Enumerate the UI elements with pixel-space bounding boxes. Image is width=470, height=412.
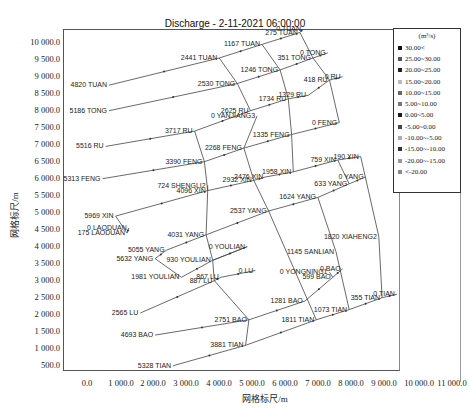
cross-section-label: 4820 TUAN bbox=[71, 81, 107, 88]
cross-section-label: 1073 TIAN bbox=[314, 306, 347, 313]
legend-swatch-icon bbox=[398, 159, 402, 163]
cross-section-label: 1281 BAO bbox=[270, 297, 303, 304]
flow-marker-icon bbox=[268, 104, 270, 106]
cross-section-label: 5516 RU bbox=[76, 142, 104, 149]
cross-section-label: 4031 YANG bbox=[167, 231, 204, 238]
legend-border-line bbox=[460, 192, 461, 382]
legend-swatch-icon bbox=[398, 147, 402, 151]
river-reach-line bbox=[246, 320, 249, 346]
flow-marker-icon bbox=[276, 310, 278, 312]
cross-section-label: 1145 SANLIAN bbox=[287, 248, 334, 255]
legend-swatch-icon bbox=[398, 136, 402, 140]
legend-label: 5.00~10.00 bbox=[405, 100, 437, 108]
flow-marker-icon bbox=[318, 288, 320, 290]
flow-marker-icon bbox=[337, 272, 339, 274]
legend-label: -10.00~-5.00 bbox=[405, 134, 441, 142]
cross-section-label: 2441 TUAN bbox=[181, 54, 217, 61]
flow-marker-icon bbox=[149, 138, 151, 140]
cross-section-label: 633 YANG bbox=[314, 180, 347, 187]
legend-label: 15.00~20.00 bbox=[405, 78, 440, 86]
legend-entry: 15.00~20.00 bbox=[398, 76, 456, 87]
flow-marker-icon bbox=[267, 140, 269, 142]
river-reach-line bbox=[336, 252, 349, 310]
flow-marker-icon bbox=[280, 38, 282, 40]
cross-section-label: 930 YOULIAN bbox=[166, 256, 210, 263]
cross-section-label: 599 BAO bbox=[302, 273, 331, 280]
flow-marker-icon bbox=[230, 185, 232, 187]
cross-section-label: 2751 BAO bbox=[215, 316, 248, 323]
cross-section-label: 1246 TONG bbox=[241, 66, 279, 73]
river-reach-line bbox=[206, 191, 208, 235]
cross-section-label: 3881 TIAN bbox=[210, 341, 243, 348]
cross-section-label: 1811 TIAN bbox=[281, 316, 314, 323]
flow-marker-icon bbox=[333, 190, 335, 192]
legend-swatch-icon bbox=[398, 113, 402, 117]
legend-unit: (m³/s) bbox=[398, 32, 456, 40]
legend-entry: <-20.00 bbox=[398, 166, 456, 177]
cross-section-label: 2565 LU bbox=[112, 309, 138, 316]
cross-section-label: 5055 YANG bbox=[128, 246, 165, 253]
river-reach-line bbox=[379, 237, 382, 298]
cross-section-label: 1958 XIN bbox=[262, 168, 291, 175]
flow-marker-icon bbox=[127, 230, 129, 232]
legend-label: 10.00~15.00 bbox=[405, 89, 440, 97]
legend-entry: -5.00~0.00 bbox=[398, 121, 456, 132]
cross-section-label: 1820 XIAHENG2 bbox=[324, 233, 377, 240]
flow-marker-icon bbox=[196, 268, 198, 270]
cross-section-label: 190 XIN bbox=[333, 153, 358, 160]
legend: (m³/s) 30.00<25.00~30.0020.00~25.0015.00… bbox=[393, 28, 461, 193]
flow-marker-icon bbox=[280, 332, 282, 334]
flow-marker-icon bbox=[296, 63, 298, 65]
river-reach-line bbox=[173, 294, 397, 365]
river-reach-line bbox=[330, 80, 340, 123]
flow-marker-icon bbox=[172, 96, 174, 98]
cross-section-label: 355 TIAN bbox=[351, 294, 380, 301]
legend-label: -5.00~0.00 bbox=[405, 123, 436, 131]
legend-label: 25.00~30.00 bbox=[405, 55, 440, 63]
flow-marker-icon bbox=[318, 87, 320, 89]
legend-swatch-icon bbox=[398, 170, 402, 174]
legend-swatch-icon bbox=[398, 57, 402, 61]
legend-entry: -15.00~-10.00 bbox=[398, 144, 456, 155]
cross-section-label: 418 RU bbox=[304, 76, 328, 83]
legend-entry: 20.00~25.00 bbox=[398, 65, 456, 76]
flow-marker-icon bbox=[223, 154, 225, 156]
legend-swatch-icon bbox=[398, 102, 402, 106]
legend-label: -15.00~-10.00 bbox=[405, 145, 445, 153]
legend-swatch-icon bbox=[398, 68, 402, 72]
legend-entry: 0.00~5.00 bbox=[398, 110, 456, 121]
river-reach-line bbox=[361, 157, 379, 237]
legend-swatch-icon bbox=[398, 80, 402, 84]
legend-items: 30.00<25.00~30.0020.00~25.0015.00~20.001… bbox=[398, 42, 456, 178]
flow-marker-icon bbox=[332, 314, 334, 316]
flow-marker-icon bbox=[240, 50, 242, 52]
legend-entry: 10.00~15.00 bbox=[398, 87, 456, 98]
flow-marker-icon bbox=[292, 203, 294, 205]
flow-marker-icon bbox=[152, 169, 154, 171]
cross-section-label: 2537 YANG bbox=[230, 207, 267, 214]
flow-marker-icon bbox=[229, 253, 231, 255]
legend-entry: 25.00~30.00 bbox=[398, 53, 456, 64]
cross-section-label: 1624 YANG bbox=[279, 193, 316, 200]
cross-section-label: 1981 YOULIAN bbox=[131, 273, 179, 280]
cross-section-label: 5313 FENG bbox=[64, 175, 101, 182]
cross-section-label: 275 TUAN bbox=[265, 29, 298, 36]
flow-marker-icon bbox=[163, 71, 165, 73]
cross-section-label: 2268 FENG bbox=[205, 144, 242, 151]
legend-entry: 5.00~10.00 bbox=[398, 98, 456, 109]
cross-section-label: 2932 XIN bbox=[223, 176, 252, 183]
cross-section-label: 3390 FENG bbox=[165, 158, 202, 165]
legend-swatch-icon bbox=[398, 91, 402, 95]
flow-marker-icon bbox=[315, 128, 317, 130]
river-reach-line bbox=[288, 99, 291, 135]
cross-section-label: 5632 YANG bbox=[116, 255, 153, 262]
flow-marker-icon bbox=[176, 296, 178, 298]
legend-entry: -20.00~-15.00 bbox=[398, 155, 456, 166]
flow-marker-icon bbox=[161, 202, 163, 204]
cross-section-label: 0 LU bbox=[239, 267, 254, 274]
legend-entry: -10.00~-5.00 bbox=[398, 132, 456, 143]
cross-section-label: 2530 TONG bbox=[198, 80, 236, 87]
flow-marker-icon bbox=[236, 222, 238, 224]
flow-marker-icon bbox=[160, 253, 162, 255]
cross-section-label: 4096 XIN bbox=[177, 187, 206, 194]
